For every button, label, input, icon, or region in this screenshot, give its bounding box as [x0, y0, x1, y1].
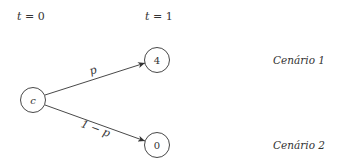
- node-up-label: 4: [154, 55, 160, 66]
- time-eq: =: [149, 10, 165, 23]
- node-down-label: 0: [154, 140, 160, 151]
- time-value: 0: [38, 10, 45, 23]
- time-label-t1: t = 1: [145, 10, 173, 23]
- time-value: 1: [166, 10, 173, 23]
- node-down: 0: [145, 133, 170, 158]
- probability-tree-diagram: t = 0 t = 1 p 1 − p c 4 0 Cenário 1 Cená…: [0, 0, 338, 165]
- edge-down-label: 1 − p: [79, 117, 112, 140]
- edge-up-label: p: [88, 63, 99, 78]
- svg-text:t = 1: t = 1: [145, 10, 173, 23]
- scenario-2-label: Cenário 2: [273, 139, 325, 151]
- node-root: c: [21, 88, 46, 113]
- node-root-label: c: [30, 95, 36, 106]
- svg-text:t = 0: t = 0: [17, 10, 45, 23]
- scenario-1-label: Cenário 1: [273, 54, 325, 66]
- time-eq: =: [21, 10, 37, 23]
- node-up: 4: [145, 48, 170, 73]
- time-label-t0: t = 0: [17, 10, 45, 23]
